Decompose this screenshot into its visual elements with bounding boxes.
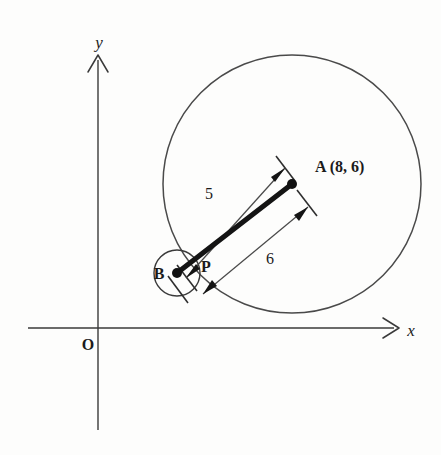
dim-6-arrow-end — [294, 207, 308, 221]
point-B-label: B — [154, 265, 165, 282]
dim-6-line — [203, 207, 308, 294]
dimension-5-label: 5 — [205, 185, 213, 202]
dim-6-tick-start — [168, 276, 188, 303]
y-axis-label: y — [93, 33, 103, 52]
segment-BA — [177, 184, 292, 273]
dim-5-tick-end — [276, 156, 295, 181]
x-axis-label: x — [406, 321, 415, 340]
dimension-6-label: 6 — [266, 250, 274, 267]
diagram-canvas: x y O A (8, 6) B P 5 6 — [0, 0, 441, 455]
geometry-figure: x y O A (8, 6) B P 5 6 — [0, 0, 441, 455]
point-B-dot — [172, 268, 182, 278]
origin-label: O — [82, 336, 94, 353]
dimension-5-group — [177, 156, 295, 291]
dim-6-arrow-start — [203, 280, 217, 294]
dimension-6-group — [168, 190, 317, 303]
dim-5-arrow-end — [271, 168, 285, 182]
point-A-label: A (8, 6) — [315, 158, 364, 176]
point-P-label: P — [201, 258, 211, 275]
point-A-dot — [287, 179, 297, 189]
